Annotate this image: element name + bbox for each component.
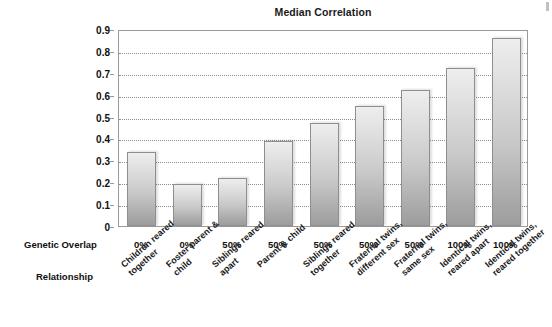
y-axis: 00.10.20.30.40.50.60.70.80.9 — [86, 30, 114, 227]
bar — [127, 152, 156, 226]
genetic-overlap-row-label: Genetic Overlap — [24, 239, 97, 250]
bars-layer — [119, 31, 527, 226]
y-axis-tick-label: 0.1 — [96, 200, 110, 211]
y-axis-tick-mark — [110, 118, 114, 119]
bar — [310, 123, 339, 226]
relationship-row-label: Relationship — [36, 271, 93, 282]
plot-area — [118, 30, 528, 227]
bar — [401, 90, 430, 226]
bar — [264, 141, 293, 226]
y-axis-tick-label: 0.5 — [96, 112, 110, 123]
y-axis-tick-label: 0.7 — [96, 68, 110, 79]
y-axis-tick-label: 0.6 — [96, 90, 110, 101]
y-axis-tick-label: 0.4 — [96, 134, 110, 145]
bar — [173, 184, 202, 226]
bar — [446, 68, 475, 226]
top-right-artifact — [546, 2, 549, 11]
bar — [218, 178, 247, 226]
y-axis-tick-label: 0.8 — [96, 46, 110, 57]
y-axis-tick-mark — [110, 96, 114, 97]
y-axis-tick-mark — [110, 205, 114, 206]
y-axis-tick-label: 0.2 — [96, 178, 110, 189]
y-axis-tick-mark — [110, 30, 114, 31]
y-axis-tick-label: 0.9 — [96, 25, 110, 36]
chart-title: Median Correlation — [118, 6, 528, 18]
y-axis-tick-mark — [110, 74, 114, 75]
bar — [492, 38, 521, 226]
y-axis-tick-mark — [110, 161, 114, 162]
y-axis-tick-mark — [110, 139, 114, 140]
y-axis-tick-mark — [110, 52, 114, 53]
y-axis-tick-mark — [110, 183, 114, 184]
y-axis-tick-mark — [110, 227, 114, 228]
y-axis-tick-label: 0.3 — [96, 156, 110, 167]
bar — [355, 106, 384, 226]
